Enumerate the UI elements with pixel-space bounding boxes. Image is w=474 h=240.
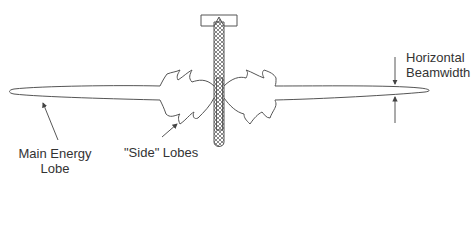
main-lobe-pointer-arrow: [43, 103, 58, 140]
main-lobe-label-line1: Main Energy: [15, 146, 95, 161]
side-lobes-left: [160, 70, 214, 124]
beamwidth-label-line2: Beamwidth: [406, 65, 470, 80]
side-lobes-pointer-arrow: [162, 124, 177, 137]
main-lobe-right: [275, 86, 429, 100]
main-lobe-left: [10, 86, 161, 100]
side-lobes-label: "Side" Lobes: [124, 145, 198, 160]
side-lobes-right: [224, 70, 276, 124]
main-lobe-label-line2: Lobe: [15, 161, 95, 176]
beamwidth-label-line1: Horizontal: [406, 50, 465, 65]
